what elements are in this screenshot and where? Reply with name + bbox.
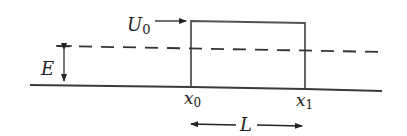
potential-barrier-diagram: E U0 x0 x1 L <box>0 0 407 136</box>
barrier-bottom <box>191 87 305 89</box>
right-edge-label: x1 <box>296 90 313 112</box>
barrier <box>191 21 305 89</box>
left-edge-label: x0 <box>184 88 201 110</box>
baseline-right <box>305 89 382 91</box>
width-arrow-left <box>191 124 236 125</box>
barrier-height-label: U0 <box>127 14 150 37</box>
baseline <box>30 85 191 87</box>
energy-level-line <box>57 46 384 52</box>
width-label: L <box>239 114 252 135</box>
energy-label: E <box>40 58 54 79</box>
width-arrow-right <box>257 125 302 126</box>
